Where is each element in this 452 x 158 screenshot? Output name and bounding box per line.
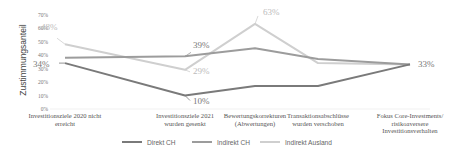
y-tick-label: 10%: [38, 93, 49, 99]
category-label: Bewertungskorrekturen: [224, 112, 287, 119]
category-label: risikoaversere: [392, 120, 429, 127]
line-chart: Zustimmungsanteil 0%10%20%30%40%50%60%70…: [0, 0, 452, 158]
legend-label: Direkt CH: [147, 139, 176, 146]
legend: Direkt CHIndirekt CHIndirekt Ausland: [122, 139, 332, 146]
y-tick-label: 20%: [38, 79, 49, 85]
category-label: Transaktionsabschlüsse: [287, 112, 349, 119]
y-tick-label: 50%: [38, 39, 49, 45]
series-line-indirekt-ch: [65, 48, 410, 64]
series-line-direkt-ch: [65, 63, 410, 95]
leader-line: [57, 38, 65, 44]
category-label: wurden gesenkt: [164, 120, 206, 127]
data-label: 34%: [33, 59, 50, 69]
legend-label: Indirekt CH: [217, 139, 250, 146]
y-axis-label: Zustimmungsanteil: [18, 24, 28, 95]
category-label: wurden verschoben: [292, 120, 344, 127]
data-label: 39%: [193, 40, 210, 50]
data-label: 29%: [193, 66, 210, 76]
legend-label: Indirekt Ausland: [285, 139, 332, 146]
category-label: Investitionsziele 2021: [156, 112, 214, 119]
series-lines: [65, 24, 410, 96]
category-label: Investitionsziele 2020 nicht: [29, 112, 102, 119]
data-label: 48%: [41, 22, 58, 32]
x-axis-categories: Investitionsziele 2020 nichterreichtInve…: [29, 112, 444, 134]
data-label: 63%: [263, 7, 280, 17]
data-labels: 48%34%39%29%10%63%33%: [33, 7, 435, 106]
category-label: Investitionsverhalten: [382, 127, 438, 134]
y-tick-label: 40%: [38, 52, 49, 58]
leader-line: [255, 16, 258, 24]
series-line-indirekt-ausland: [65, 24, 410, 70]
category-label: (Abwertungen): [235, 120, 275, 128]
leader-line: [185, 96, 190, 101]
category-label: Fokus Core-Investments/: [377, 112, 444, 119]
y-tick-label: 70%: [38, 12, 49, 18]
leader-line: [185, 70, 190, 72]
category-label: erreicht: [55, 120, 75, 127]
data-label: 33%: [418, 59, 435, 69]
data-label: 10%: [193, 96, 210, 106]
